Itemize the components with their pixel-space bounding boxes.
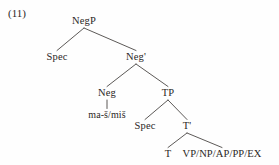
tree-node-maš: ma-š/miš [88, 110, 125, 120]
tree-node-negbar: Neg' [126, 52, 146, 63]
tree-edge-negbar-tp [136, 64, 168, 87]
tree-node-spec1: Spec [46, 52, 67, 63]
tree-node-comp: VP/NP/AP/PP/EX [182, 149, 261, 160]
tree-node-t: T [165, 149, 172, 160]
tree-edge-tbar-comp [187, 133, 222, 148]
tree-edge-negp-spec1 [57, 28, 84, 51]
syntax-tree-figure: (11) NegPSpecNeg'Negma-š/mišTPSpecT'TVP/… [0, 0, 279, 165]
tree-node-tbar: T' [183, 121, 192, 132]
tree-node-negp: NegP [72, 16, 96, 27]
tree-edge-negp-negbar [84, 28, 136, 51]
tree-edge-tp-spec2 [145, 100, 168, 120]
tree-edge-tbar-t [168, 133, 187, 148]
tree-branch-lines [0, 0, 279, 165]
tree-edge-negbar-neg [107, 64, 136, 87]
tree-node-spec2: Spec [134, 121, 155, 132]
tree-edge-tp-tbar [168, 100, 187, 120]
tree-node-tp: TP [162, 88, 175, 99]
tree-node-neg: Neg [98, 88, 116, 99]
